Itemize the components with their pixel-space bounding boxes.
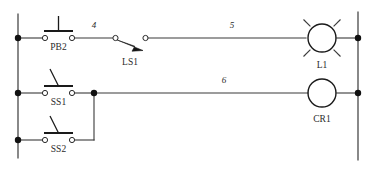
l1-ray-lower-left [304, 50, 311, 57]
ss2-terminal-right [69, 137, 74, 142]
pb2-terminal-right [69, 35, 74, 40]
pb2-label: PB2 [50, 42, 67, 52]
ls1-actuator-flag [117, 40, 143, 51]
ls1-label: LS1 [122, 57, 138, 67]
junction-left-rung3 [15, 137, 21, 143]
junction-branch-merge [91, 90, 97, 96]
wire-number-4: 4 [92, 20, 97, 30]
ss2-stem [50, 116, 59, 133]
contact-ls1[interactable] [113, 35, 148, 51]
ls1-terminal-right [143, 35, 148, 40]
wire-number-6: 6 [222, 75, 227, 85]
l1-ray-upper-left [304, 20, 311, 27]
ladder-diagram: PB2 4 LS1 5 L1 [0, 0, 379, 170]
junction-left-rung1 [15, 35, 21, 41]
cr1-label: CR1 [313, 114, 331, 124]
ss1-terminal-left [42, 90, 47, 95]
l1-ray-lower-right [334, 50, 341, 57]
ss1-label: SS1 [51, 97, 67, 107]
lamp-l1 [304, 20, 341, 57]
ss1-stem [50, 69, 59, 86]
junction-left-rung2 [15, 90, 21, 96]
coil-cr1 [308, 79, 336, 107]
contact-pb2[interactable] [42, 16, 74, 41]
pb2-terminal-left [42, 35, 47, 40]
l1-body [308, 24, 336, 52]
l1-label: L1 [317, 60, 328, 70]
junction-right-rung1 [355, 35, 361, 41]
cr1-body [308, 79, 336, 107]
wire-number-5: 5 [230, 20, 235, 30]
ss2-terminal-left [42, 137, 47, 142]
ss1-terminal-right [69, 90, 74, 95]
contact-ss2[interactable] [42, 116, 74, 143]
ladder-diagram-canvas: PB2 4 LS1 5 L1 [0, 0, 379, 170]
l1-ray-upper-right [334, 20, 341, 27]
junction-right-rung2 [355, 90, 361, 96]
contact-ss1[interactable] [42, 69, 74, 96]
ss2-label: SS2 [51, 144, 67, 154]
